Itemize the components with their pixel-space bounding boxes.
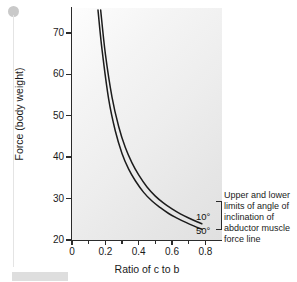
y-axis-tick-label: 70 [40,28,64,38]
x-axis-minor-tick [121,240,122,244]
y-axis-tick-label: 40 [40,152,64,162]
x-axis-tick-label: 0.4 [126,247,152,257]
x-axis-line [71,240,222,241]
x-axis-minor-tick [155,240,156,244]
y-axis-title: Force (body weight) [13,59,25,169]
y-axis-tick [66,74,71,75]
x-axis-tick [105,240,106,245]
y-axis-tick [66,198,71,199]
series-label-lower: 50° [196,226,210,236]
y-axis-tick [66,32,71,33]
x-axis-tick-label: 0.2 [92,247,118,257]
y-axis-tick-label: 30 [40,194,64,204]
x-axis-tick-label: 0.8 [192,247,218,257]
x-axis-title: Ratio of c to b [72,263,222,275]
y-axis-tick-label: 60 [40,69,64,79]
y-axis-tick-label: 20 [40,235,64,245]
annotation-text: Upper and lower limits of angle of incli… [224,190,296,245]
x-axis-tick-label: 0 [59,247,85,257]
y-axis-tick [66,156,71,157]
x-axis-minor-tick [188,240,189,244]
x-axis-tick [138,240,139,245]
x-axis-tick [205,240,206,245]
series-label-upper: 10° [196,212,210,222]
y-axis-tick [66,115,71,116]
y-axis-tick [66,239,71,240]
figure-container: 706050403020 00.20.40.60.8 10° 50° Upper… [0,0,297,282]
x-axis-tick [71,240,72,245]
x-axis-tick-label: 0.6 [159,247,185,257]
x-axis-tick [171,240,172,245]
plot-area [72,8,222,240]
y-axis-line [71,7,72,241]
annotation-bracket-icon [216,201,222,230]
x-axis-minor-tick [88,240,89,244]
y-axis-tick-label: 50 [40,111,64,121]
caption-strip-decoration [12,272,68,281]
